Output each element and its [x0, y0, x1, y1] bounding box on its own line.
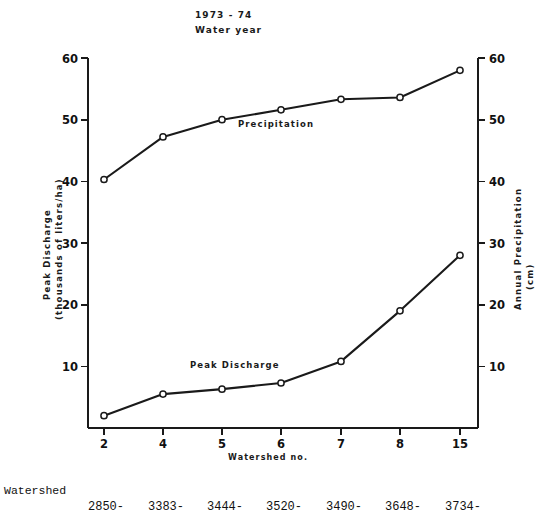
table-cell-top: 3734-	[445, 499, 481, 515]
y-tick-label-right-50: 50	[489, 113, 515, 127]
table-cell-top: 3383-	[148, 499, 184, 515]
y-tick-label-right-20: 20	[489, 298, 515, 312]
series-line	[104, 255, 460, 415]
x-axis-ticks	[104, 428, 460, 435]
data-point-marker	[219, 117, 225, 123]
y-tick-label-left-50: 50	[52, 113, 78, 127]
data-point-marker	[160, 134, 166, 140]
x-tick-label-4: 4	[150, 437, 176, 451]
y-tick-label-left-10: 10	[52, 360, 78, 374]
data-point-marker	[278, 380, 284, 386]
y-axis-ticks-right	[478, 58, 485, 366]
data-point-marker	[457, 67, 463, 73]
data-point-marker	[397, 308, 403, 314]
table-cell-elevation-5: 3444- 2804	[207, 467, 243, 522]
data-point-marker	[101, 413, 107, 419]
table-cell-elevation-15: 3734- 3231	[445, 467, 481, 522]
y-axis-ticks-left	[81, 58, 88, 366]
data-point-marker	[338, 358, 344, 364]
data-point-marker	[338, 96, 344, 102]
table-cell-top: 3520-	[266, 499, 302, 515]
y-axis-title-right-line-1: Annual Precipitation	[513, 188, 523, 310]
table-cell-top: 2850-	[88, 499, 124, 515]
table-row-header: Watershed Elevational Range (ft.)	[4, 452, 80, 522]
table-cell-top: 3490-	[326, 499, 362, 515]
x-tick-label-6: 6	[268, 437, 294, 451]
table-cell-top: 3444-	[207, 499, 243, 515]
table-cell-elevation-6: 3520- 2972	[266, 467, 302, 522]
x-axis-title: Watershed no.	[228, 453, 308, 462]
data-point-marker	[219, 386, 225, 392]
table-cell-elevation-2: 2850- 2423	[88, 467, 124, 522]
data-point-marker	[278, 107, 284, 113]
table-cell-elevation-4: 3383- 2621	[148, 467, 184, 522]
series-label-precipitation: Precipitation	[238, 119, 314, 129]
y-tick-label-left-60: 60	[52, 52, 78, 66]
x-tick-label-15: 15	[447, 437, 473, 451]
y-tick-label-right-10: 10	[489, 360, 515, 374]
data-point-marker	[160, 391, 166, 397]
table-cell-elevation-7: 3490- 2987	[326, 467, 362, 522]
data-point-marker	[101, 176, 107, 182]
y-axis-title-right-line-2: (cm)	[525, 264, 535, 290]
series-label-peak-discharge: Peak Discharge	[190, 360, 280, 370]
data-point-marker	[397, 94, 403, 100]
y-tick-label-right-30: 30	[489, 237, 515, 251]
chart-figure: 1973 - 74 Water year	[0, 0, 540, 522]
x-tick-label-2: 2	[91, 437, 117, 451]
y-tick-label-right-60: 60	[489, 52, 515, 66]
y-tick-label-right-40: 40	[489, 175, 515, 189]
data-point-marker	[457, 252, 463, 258]
x-tick-label-7: 7	[328, 437, 354, 451]
table-cell-top: 3648-	[385, 499, 421, 515]
axis-frame	[88, 58, 478, 428]
series-peak-discharge	[101, 252, 463, 419]
y-axis-title-left-line-1: Peak Discharge	[42, 209, 52, 300]
x-tick-label-5: 5	[209, 437, 235, 451]
y-axis-title-left-line-2: (thousands of liters/ha)	[54, 178, 64, 320]
x-tick-label-8: 8	[387, 437, 413, 451]
table-cell-elevation-8: 3648- 2941	[385, 467, 421, 522]
table-row-header-line-1: Watershed	[4, 483, 80, 499]
